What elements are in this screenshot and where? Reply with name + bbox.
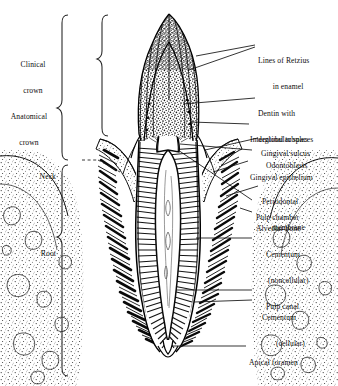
label-neck-line1: Neck xyxy=(2,173,56,182)
label-cementum-noncellular-line1: Cementum xyxy=(266,251,309,260)
bracket-clinical-crown xyxy=(97,15,108,136)
bracket-anatomical-crown xyxy=(57,15,68,160)
label-root: Root xyxy=(2,233,56,267)
tooth-anatomy-figure: Clinical crown Anatomical crown Neck Roo… xyxy=(0,0,338,386)
label-clinical-crown-line1: Clinical xyxy=(8,61,58,70)
label-lines-of-retzius-line2: in enamel xyxy=(258,83,309,92)
label-anatomical-crown: Anatomical crown xyxy=(2,96,56,156)
label-dentin-line1: Dentin with xyxy=(258,110,308,119)
gingiva-left xyxy=(96,139,142,202)
label-neck: Neck xyxy=(2,156,56,190)
label-anatomical-crown-line1: Anatomical xyxy=(2,113,56,122)
label-anatomical-crown-line2: crown xyxy=(2,139,56,148)
label-cementum-noncellular-line2: (noncellular) xyxy=(266,277,309,286)
label-root-line1: Root xyxy=(2,250,56,259)
label-clinical-crown-line2: crown xyxy=(8,87,58,96)
label-lines-of-retzius: Lines of Retzius in enamel xyxy=(258,40,309,100)
enamel xyxy=(132,10,204,146)
label-alveolar-bone-line1: Alveolar bone xyxy=(256,225,301,234)
label-lines-of-retzius-line1: Lines of Retzius xyxy=(258,57,309,66)
label-apical-foramen: Apical foramen xyxy=(249,342,298,376)
label-cementum-cellular-line1: Cementum xyxy=(262,314,305,323)
label-apical-foramen-line1: Apical foramen xyxy=(249,359,298,368)
